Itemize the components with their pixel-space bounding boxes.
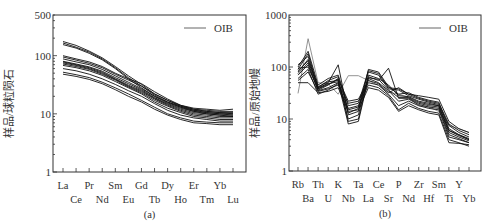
- x-tick-label-la: La: [57, 180, 68, 191]
- x-tick-label-nd: Nd: [96, 194, 110, 205]
- x-tick-label-k: K: [334, 179, 342, 190]
- x-tick-label-ce: Ce: [373, 179, 385, 190]
- x-tick-label-sm: Sm: [108, 180, 122, 191]
- x-tick-label-ho: Ho: [174, 194, 187, 205]
- y-tick-label: 100: [271, 61, 288, 73]
- panel-b-primitive-mantle-spider: 1101001000RbBaThUKNbTaLaCeSrPNdZrHfSmTiY…: [248, 9, 481, 220]
- x-tick-label-y: Y: [455, 179, 463, 190]
- y-tick-label: 1000: [265, 9, 288, 21]
- y-tick-label: 10: [276, 113, 288, 125]
- y-tick-label: 1: [282, 165, 288, 177]
- x-tick-label-dy: Dy: [161, 180, 175, 191]
- x-tick-label-ba: Ba: [302, 193, 314, 204]
- y-axis-title: 样品/原始地幔: [248, 68, 261, 137]
- sample-line: [298, 63, 469, 141]
- series-lines: [63, 42, 233, 125]
- x-tick-label-th: Th: [312, 179, 324, 190]
- y-axis-title: 样品/球粒陨石: [2, 69, 15, 138]
- x-tick-label-lu: Lu: [227, 194, 239, 205]
- x-tick-label-pr: Pr: [84, 180, 94, 191]
- y-tick-label: 100: [35, 50, 52, 62]
- x-tick-label-rb: Rb: [292, 179, 304, 190]
- x-tick-label-la: La: [363, 193, 374, 204]
- panel-a-chondrite-ree-pattern: 110100500LaCePrNdSmEuGdTbDyHoErTmYbLu(a)…: [2, 9, 246, 221]
- x-tick-label-ti: Ti: [444, 193, 453, 204]
- sample-line: [298, 65, 469, 143]
- x-tick-label-tm: Tm: [200, 194, 215, 205]
- x-tick-label-nb: Nb: [342, 193, 355, 204]
- x-tick-label-er: Er: [189, 180, 199, 191]
- x-tick-label-hf: Hf: [423, 193, 435, 204]
- x-tick-label-ce: Ce: [70, 194, 82, 205]
- x-tick-label-u: U: [324, 193, 332, 204]
- x-tick-label-ta: Ta: [353, 179, 364, 190]
- x-tick-label-p: P: [396, 179, 402, 190]
- panel-caption: (b): [379, 208, 392, 220]
- figure: 110100500LaCePrNdSmEuGdTbDyHoErTmYbLu(a)…: [0, 0, 491, 223]
- x-tick-label-tb: Tb: [149, 194, 161, 205]
- x-tick-label-eu: Eu: [123, 194, 135, 205]
- y-tick-label: 10: [40, 108, 52, 120]
- series-lines: [298, 39, 469, 147]
- x-tick-label-nd: Nd: [402, 193, 416, 204]
- y-tick-label: 1: [46, 166, 52, 178]
- legend-label: OIB: [214, 22, 233, 34]
- x-tick-label-sm: Sm: [432, 179, 446, 190]
- sample-line: [63, 57, 233, 115]
- x-tick-label-gd: Gd: [135, 180, 149, 191]
- y-tick-label: 500: [35, 9, 52, 21]
- legend-label: OIB: [449, 22, 468, 34]
- panel-caption: (a): [144, 209, 156, 221]
- sample-line: [63, 45, 233, 113]
- x-tick-label-zr: Zr: [414, 179, 424, 190]
- x-tick-label-sr: Sr: [384, 193, 394, 204]
- x-tick-label-yb: Yb: [214, 180, 227, 191]
- x-tick-label-yb: Yb: [463, 193, 476, 204]
- figure-canvas: 110100500LaCePrNdSmEuGdTbDyHoErTmYbLu(a)…: [0, 0, 491, 223]
